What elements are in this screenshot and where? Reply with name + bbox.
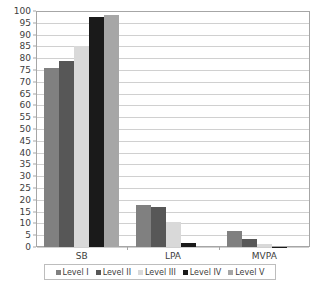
legend-item-level-i[interactable]: Level I (56, 268, 89, 277)
x-axis-separator (219, 247, 220, 250)
y-axis-tick-label: 15 (20, 207, 31, 216)
y-axis-tick-label: 40 (20, 148, 31, 157)
bar (151, 207, 166, 247)
bar (166, 222, 181, 247)
y-axis-tick-label: 20 (20, 195, 31, 204)
y-axis-tick-label: 60 (20, 101, 31, 110)
y-axis: 0510152025303540455055606570758085909510… (0, 11, 36, 247)
legend-item-level-iv[interactable]: Level IV (183, 268, 222, 277)
bar (89, 17, 104, 247)
bar (44, 68, 59, 247)
bar-group (136, 11, 211, 247)
legend-label: Level V (235, 268, 264, 277)
y-axis-tick-label: 45 (20, 136, 31, 145)
x-axis-label-mvpa: MVPA (252, 251, 277, 261)
legend-label: Level II (103, 268, 131, 277)
bar (104, 15, 119, 247)
bars-layer (36, 11, 310, 247)
y-axis-tick-label: 70 (20, 77, 31, 86)
y-axis-tick-label: 65 (20, 89, 31, 98)
y-axis-tick-label: 50 (20, 125, 31, 134)
bar (227, 231, 242, 247)
legend-label: Level IV (190, 268, 222, 277)
x-axis-label-lpa: LPA (165, 251, 181, 261)
legend-swatch-icon (183, 270, 188, 275)
y-axis-tick-label: 25 (20, 184, 31, 193)
legend-swatch-icon (138, 270, 143, 275)
bar (59, 61, 74, 247)
bar (136, 205, 151, 247)
y-axis-tick-label: 85 (20, 42, 31, 51)
legend-label: Level I (63, 268, 89, 277)
x-axis: SBLPAMVPA (36, 247, 310, 263)
y-axis-tick-label: 0 (25, 243, 31, 252)
legend-item-level-iii[interactable]: Level III (138, 268, 176, 277)
bar (74, 46, 89, 247)
bar-chart: 0510152025303540455055606570758085909510… (0, 0, 318, 285)
bar (242, 239, 257, 247)
legend-item-level-ii[interactable]: Level II (96, 268, 131, 277)
y-axis-tick-label: 100 (14, 7, 31, 16)
legend-label: Level III (145, 268, 176, 277)
x-axis-label-sb: SB (76, 251, 88, 261)
bar-group (44, 11, 119, 247)
bar-group (227, 11, 302, 247)
y-axis-tick-label: 5 (25, 231, 31, 240)
legend-swatch-icon (228, 270, 233, 275)
x-axis-separator (127, 247, 128, 250)
y-axis-tick-label: 35 (20, 160, 31, 169)
legend-item-level-v[interactable]: Level V (228, 268, 264, 277)
y-axis-tick-label: 80 (20, 54, 31, 63)
y-axis-tick-label: 75 (20, 66, 31, 75)
y-axis-tick-label: 30 (20, 172, 31, 181)
legend-swatch-icon (96, 270, 101, 275)
y-axis-tick-label: 90 (20, 30, 31, 39)
y-axis-tick-label: 55 (20, 113, 31, 122)
legend-swatch-icon (56, 270, 61, 275)
y-axis-tick-label: 10 (20, 219, 31, 228)
y-axis-tick-label: 95 (20, 18, 31, 27)
chart-legend: Level ILevel IILevel IIILevel IVLevel V (44, 264, 276, 280)
